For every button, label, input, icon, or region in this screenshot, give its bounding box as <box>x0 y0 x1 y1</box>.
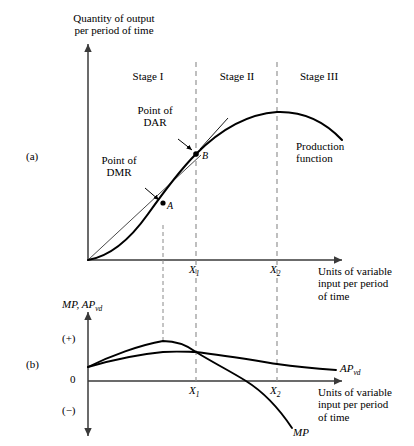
production-function-label: Production function <box>296 140 376 164</box>
panel-a-tick-x2-main: X <box>270 263 277 275</box>
panel-a-x-axis-title: Units of variable input per period of ti… <box>318 265 414 302</box>
stage-label-2: Stage II <box>197 70 277 82</box>
panel-b-tick-x1-main: X <box>189 384 196 396</box>
panel-b-y-axis-title: MP, APvd <box>62 298 102 314</box>
tangent-segment-at-b <box>200 118 228 149</box>
annotation-point-of-dar: Point of DAR <box>124 104 186 128</box>
panel-a-y-axis-title-line2: per period of time <box>34 24 194 36</box>
production-stages-figure: Quantity of output per period of time (a… <box>0 0 414 446</box>
diagram-canvas <box>0 0 414 446</box>
callout-arrow-dar <box>178 139 192 150</box>
panel-b-negative-label: (−) <box>62 404 76 416</box>
ap-curve-label: APvd <box>340 362 361 378</box>
annotation-dar-line1: Point of <box>124 104 186 116</box>
panel-a-tick-x2-sub: 2 <box>277 269 281 278</box>
panel-b-x-axis-title-line1: Units of variable <box>318 386 414 398</box>
panel-b-origin-label: 0 <box>70 373 76 385</box>
panel-a-x-axis-title-line1: Units of variable <box>318 265 414 277</box>
annotation-dmr-line2: DMR <box>88 166 150 178</box>
panel-b-x-axis-title-line3: of time <box>318 411 414 423</box>
panel-b-dashed-lines <box>163 260 277 381</box>
panel-a-dashed-lines <box>163 62 277 260</box>
panel-a-y-axis-title: Quantity of output per period of time <box>34 12 194 37</box>
panel-a-tick-x1-sub: 1 <box>196 269 200 278</box>
callout-arrow-dmr <box>145 188 159 200</box>
stage-label-1: Stage I <box>108 70 188 82</box>
panel-a-tick-x2: X2 <box>270 263 280 279</box>
annotation-point-of-dmr: Point of DMR <box>88 154 150 178</box>
panel-b-tick-x2-sub: 2 <box>277 390 281 399</box>
stage-label-3: Stage III <box>279 70 359 82</box>
production-function-label-line1: Production <box>296 140 376 152</box>
panel-b-label: (b) <box>26 358 39 370</box>
panel-b-axes <box>88 312 342 436</box>
production-function-label-line2: function <box>296 152 376 164</box>
panel-b-positive-label: (+) <box>62 332 76 344</box>
panel-b-tick-x1: X1 <box>189 384 199 400</box>
panel-a-y-axis-title-line1: Quantity of output <box>34 12 194 24</box>
panel-a-x-axis-title-line2: input per period <box>318 277 414 289</box>
panel-b-tick-x1-sub: 1 <box>196 390 200 399</box>
annotation-dar-line2: DAR <box>124 116 186 128</box>
ap-curve-label-sub: vd <box>353 368 360 377</box>
point-marker-a <box>160 200 165 205</box>
panel-a-label: (a) <box>26 150 38 162</box>
annotation-dmr-line1: Point of <box>88 154 150 166</box>
point-marker-b <box>193 151 199 157</box>
panel-a-tick-x1: X1 <box>189 263 199 279</box>
panel-b-y-axis-title-sub: vd <box>95 304 102 313</box>
panel-a-x-axis-title-line3: of time <box>318 290 414 302</box>
panel-b-x-axis-title: Units of variable input per period of ti… <box>318 386 414 423</box>
panel-b-tick-x2: X2 <box>270 384 280 400</box>
panel-a-tick-x1-main: X <box>189 263 196 275</box>
panel-b-y-axis-title-main: MP, AP <box>62 298 95 310</box>
ap-curve-label-main: AP <box>340 362 353 374</box>
mp-curve-label: MP <box>293 426 309 438</box>
panel-b-x-axis-title-line2: input per period <box>318 398 414 410</box>
point-label-b: B <box>202 150 208 161</box>
panel-b-tick-x2-main: X <box>270 384 277 396</box>
point-label-a: A <box>167 200 173 211</box>
production-function-curve <box>88 112 342 260</box>
